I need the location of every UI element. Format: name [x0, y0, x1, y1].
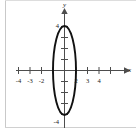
- y-axis-label: y: [63, 2, 66, 9]
- y-tick-label-4: 4: [50, 22, 59, 29]
- x-tick-label-4: 4: [95, 77, 104, 84]
- x-tick-label-2: 2: [72, 77, 81, 84]
- graph-screenshot: -4 -3 -2 2 3 4 4 -4 x y: [0, 0, 136, 133]
- x-axis-label: x: [128, 67, 131, 74]
- x-tick-label-neg2: -2: [35, 77, 48, 84]
- coordinate-plane: [0, 0, 136, 133]
- x-tick-label-3: 3: [83, 77, 92, 84]
- x-axis: [16, 67, 131, 73]
- y-tick-label-neg4: -4: [46, 118, 59, 125]
